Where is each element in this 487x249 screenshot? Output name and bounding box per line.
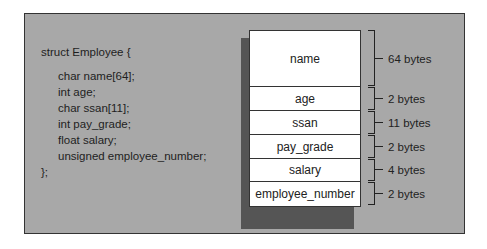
size-label-ssan: 11 bytes xyxy=(388,117,431,129)
tick-name xyxy=(375,58,383,59)
bracket-salary xyxy=(368,159,375,181)
tick-pay-grade xyxy=(375,146,383,147)
tick-age xyxy=(375,98,383,99)
struct-footer: }; xyxy=(41,164,206,180)
tick-salary xyxy=(375,169,383,170)
field-line-employee-number: unsigned employee_number; xyxy=(41,148,206,164)
field-line-salary: float salary; xyxy=(41,132,206,148)
cell-employee-number: employee_number xyxy=(250,182,360,206)
cell-pay-grade: pay_grade xyxy=(250,135,360,159)
cell-name: name xyxy=(250,31,360,87)
field-line-age: int age; xyxy=(41,84,206,100)
struct-header: struct Employee { xyxy=(41,44,206,60)
memory-stack: name age ssan pay_grade salary employee_… xyxy=(249,30,361,207)
cell-age: age xyxy=(250,87,360,111)
bracket-employee-number xyxy=(368,182,375,205)
tick-employee-number xyxy=(375,193,383,194)
size-label-employee-number: 2 bytes xyxy=(388,188,425,200)
size-label-age: 2 bytes xyxy=(388,93,425,105)
cell-salary: salary xyxy=(250,159,360,182)
struct-code-block: struct Employee { char name[64]; int age… xyxy=(41,44,206,180)
size-label-name: 64 bytes xyxy=(388,53,431,65)
field-line-ssan: char ssan[11]; xyxy=(41,100,206,116)
bracket-age xyxy=(368,87,375,110)
bracket-name xyxy=(368,30,375,86)
size-label-pay-grade: 2 bytes xyxy=(388,141,425,153)
size-label-salary: 4 bytes xyxy=(388,164,425,176)
field-line-pay-grade: int pay_grade; xyxy=(41,116,206,132)
tick-ssan xyxy=(375,122,383,123)
bracket-ssan xyxy=(368,111,375,134)
cell-ssan: ssan xyxy=(250,111,360,135)
field-line-name: char name[64]; xyxy=(41,68,206,84)
bracket-pay-grade xyxy=(368,135,375,158)
